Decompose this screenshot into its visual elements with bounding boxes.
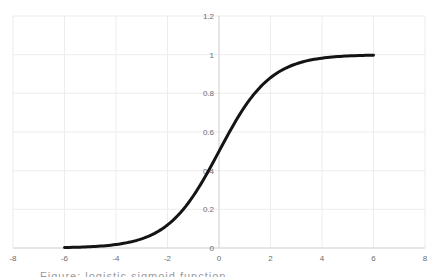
sigmoid-chart: -8-6-4-202468 00.20.40.60.811.2 <box>0 0 442 277</box>
y-tick-label: 1 <box>210 51 215 60</box>
x-tick-label: -4 <box>112 254 120 263</box>
x-tick-label: 6 <box>371 254 376 263</box>
x-axis-tick-labels: -8-6-4-202468 <box>9 254 427 263</box>
y-tick-label: 1.2 <box>203 12 215 21</box>
x-tick-label: 4 <box>320 254 325 263</box>
y-tick-label: 0.6 <box>203 128 215 137</box>
y-axis-tick-labels: 00.20.40.60.811.2 <box>203 12 215 253</box>
x-tick-label: -8 <box>9 254 17 263</box>
figure-caption: Figure: logistic sigmoid function <box>0 271 442 277</box>
x-tick-label: 2 <box>268 254 273 263</box>
y-tick-label: 0.8 <box>203 89 215 98</box>
y-tick-label: 0 <box>210 244 215 253</box>
x-tick-label: 8 <box>423 254 428 263</box>
x-tick-label: 0 <box>217 254 222 263</box>
y-tick-label: 0.2 <box>203 205 215 214</box>
caption-text: Figure: logistic sigmoid function <box>0 271 442 277</box>
x-tick-label: -6 <box>61 254 69 263</box>
x-tick-label: -2 <box>164 254 172 263</box>
